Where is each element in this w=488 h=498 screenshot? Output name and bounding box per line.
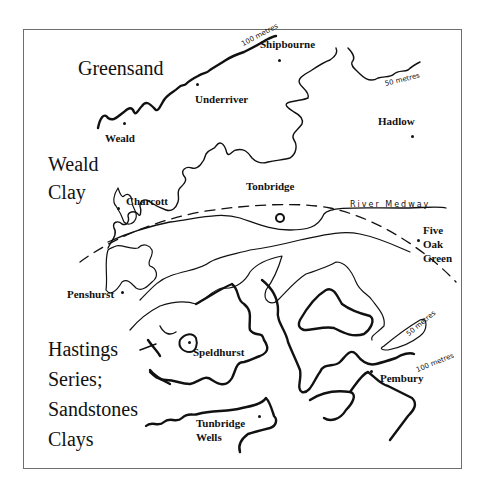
place-label-charcott: Charcott	[126, 194, 168, 208]
river-medway	[108, 207, 446, 242]
place-dot-five-oak-green	[417, 239, 420, 242]
place-label-shipbourne: Shipbourne	[260, 37, 315, 51]
place-dot-weald	[123, 122, 126, 125]
place-label-tonbridge: Tonbridge	[246, 179, 295, 193]
region-label-weald-clay-line2: Clay	[48, 178, 99, 206]
place-dot-speldhurst	[188, 341, 191, 344]
contour-mid-1	[140, 233, 410, 300]
place-label-hadlow: Hadlow	[378, 114, 415, 128]
place-dot-underriver	[196, 83, 199, 86]
contour-mid-2	[130, 256, 384, 340]
place-label-tunbridge-wells: Tunbridge Wells	[196, 416, 245, 444]
region-label-weald-clay-line1: Weald	[48, 150, 99, 178]
place-label-underriver: Underriver	[195, 92, 248, 106]
place-dot-tunbridge-wells	[258, 415, 261, 418]
place-label-weald: Weald	[105, 131, 135, 145]
contour-100m-hastings-west	[148, 340, 170, 384]
region-label-hastings: Hastings Series; Sandstones Clays	[48, 334, 138, 454]
contour-100m-north	[98, 36, 276, 128]
place-label-tunbridge: Tunbridge	[196, 416, 245, 430]
contour-penshurst-lobe	[106, 245, 156, 293]
place-dot-pembury	[370, 370, 373, 373]
region-label-greensand: Greensand	[78, 54, 164, 82]
place-label-five: Five	[423, 223, 452, 237]
region-label-hastings-line3: Sandstones	[48, 394, 138, 424]
place-label-speldhurst: Speldhurst	[193, 345, 244, 359]
river-label-medway: River Medway	[350, 200, 430, 209]
contour-hastings-mid	[140, 326, 176, 350]
place-dot-hadlow	[411, 135, 414, 138]
place-label-green: Green	[423, 251, 452, 265]
place-dot-shipbourne	[278, 59, 281, 62]
place-label-wells: Wells	[196, 430, 245, 444]
place-dot-penshurst	[121, 291, 124, 294]
place-dot-charcott	[117, 207, 120, 210]
tonbridge-castle-icon	[276, 214, 284, 222]
place-label-five-oak-green: Five Oak Green	[423, 223, 452, 265]
contour-100m-loop	[299, 289, 373, 335]
place-label-oak: Oak	[423, 237, 452, 251]
region-label-weald-clay: Weald Clay	[48, 150, 99, 206]
region-label-hastings-line1: Hastings	[48, 334, 138, 364]
region-label-hastings-line4: Clays	[48, 424, 138, 454]
region-label-hastings-line2: Series;	[48, 364, 138, 394]
place-label-penshurst: Penshurst	[67, 287, 114, 301]
